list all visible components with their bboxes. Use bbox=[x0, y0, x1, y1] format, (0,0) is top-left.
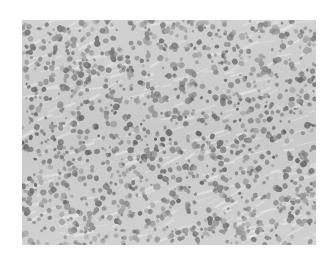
cell-texture bbox=[22, 20, 316, 245]
micrograph-image bbox=[22, 20, 316, 245]
